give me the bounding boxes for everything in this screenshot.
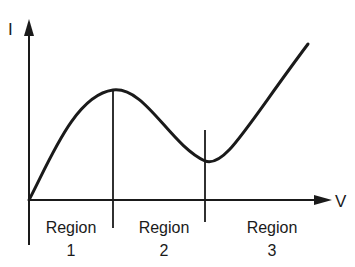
iv-characteristic-diagram: I V Region 1 Region 2 Region 3 xyxy=(0,0,355,267)
region-1-label: Region xyxy=(46,219,97,236)
region-3-label: Region xyxy=(247,219,298,236)
region-1-number: 1 xyxy=(67,242,76,259)
y-axis-arrow-icon xyxy=(24,19,34,36)
region-3-number: 3 xyxy=(268,242,277,259)
region-2-label: Region xyxy=(139,219,190,236)
region-2-number: 2 xyxy=(160,242,169,259)
iv-curve xyxy=(29,44,308,200)
x-axis-label: V xyxy=(335,192,347,211)
x-axis-arrow-icon xyxy=(314,195,332,205)
y-axis-label: I xyxy=(8,20,13,39)
